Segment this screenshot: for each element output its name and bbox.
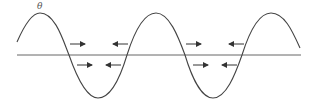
- wave-diagram: θ: [0, 0, 314, 106]
- theta-label: θ: [37, 1, 43, 11]
